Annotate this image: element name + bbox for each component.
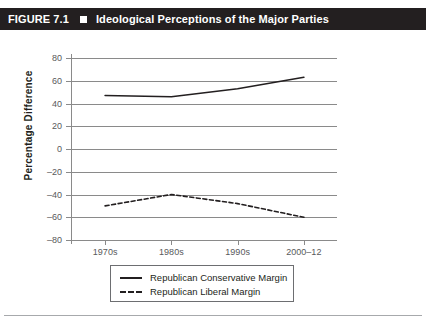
- legend-dashed-line-icon: [120, 287, 142, 296]
- x-tick-mark: [304, 240, 305, 245]
- y-tick-mark: [66, 58, 71, 59]
- gridline: [72, 126, 337, 127]
- y-tick-mark: [66, 104, 71, 105]
- y-tick-mark: [66, 81, 71, 82]
- figure-container: FIGURE 7.1 Ideological Perceptions of th…: [0, 0, 426, 327]
- y-tick-label: –60: [16, 212, 62, 222]
- gridline: [72, 81, 337, 82]
- gridline: [72, 104, 337, 105]
- legend-solid-line-icon: [120, 273, 142, 282]
- y-tick-label: –80: [16, 235, 62, 245]
- figure-header-banner: FIGURE 7.1 Ideological Perceptions of th…: [0, 8, 426, 30]
- y-tick-label: 40: [16, 99, 62, 109]
- x-tick-label: 1990s: [203, 247, 273, 257]
- figure-number: FIGURE 7.1: [8, 13, 69, 25]
- gridline: [72, 58, 337, 59]
- y-tick-mark: [66, 172, 71, 173]
- y-tick-label: –20: [16, 167, 62, 177]
- legend-item-republican-liberal-margin: Republican Liberal Margin: [111, 284, 293, 298]
- x-tick-label: 1970s: [70, 247, 140, 257]
- plot-area: [72, 58, 337, 240]
- footer-divider: [4, 315, 422, 316]
- y-tick-label: 60: [16, 76, 62, 86]
- x-tick-mark: [171, 240, 172, 245]
- legend-label: Republican Liberal Margin: [150, 286, 260, 297]
- y-tick-mark: [66, 217, 71, 218]
- legend-label: Republican Conservative Margin: [150, 272, 287, 283]
- chart-legend: Republican Conservative Margin Republica…: [110, 265, 294, 302]
- x-tick-label: 2000–12: [269, 247, 339, 257]
- y-tick-label: 0: [16, 144, 62, 154]
- gridline: [72, 195, 337, 196]
- y-tick-label: 20: [16, 121, 62, 131]
- x-tick-label: 1980s: [136, 247, 206, 257]
- square-bullet-icon: [80, 16, 87, 23]
- y-tick-label: –40: [16, 190, 62, 200]
- legend-item-republican-conservative-margin: Republican Conservative Margin: [111, 270, 293, 284]
- gridline: [72, 149, 337, 150]
- y-tick-mark: [66, 195, 71, 196]
- gridline: [72, 217, 337, 218]
- gridline: [72, 240, 337, 241]
- gridline: [72, 172, 337, 173]
- figure-title: Ideological Perceptions of the Major Par…: [96, 13, 329, 25]
- y-tick-mark: [66, 240, 71, 241]
- y-tick-mark: [66, 149, 71, 150]
- y-tick-label: 80: [16, 53, 62, 63]
- x-tick-mark: [105, 240, 106, 245]
- x-tick-mark: [238, 240, 239, 245]
- y-tick-mark: [66, 126, 71, 127]
